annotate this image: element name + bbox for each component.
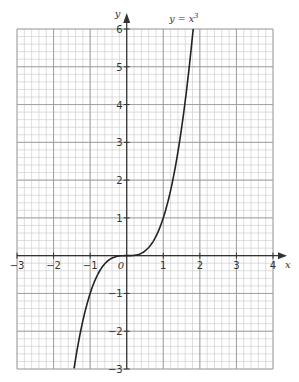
y-tick-label: 3 [116, 137, 122, 148]
curve-label-text: y = x [168, 13, 194, 24]
y-axis-arrow-icon [123, 13, 130, 23]
x-tick-label: −3 [10, 260, 25, 271]
y-tick-label: 6 [116, 24, 122, 35]
y-tick-label: 5 [116, 62, 122, 73]
x-tick-label: 3 [233, 260, 239, 271]
x-axis-title: x [285, 259, 291, 270]
cubic-curve [74, 29, 193, 368]
x-tick-label: 1 [160, 260, 166, 271]
y-tick-label: −1 [108, 288, 123, 299]
y-axis-title: y [114, 8, 121, 19]
curve-label-superscript: 3 [194, 12, 199, 20]
x-tick-label: −2 [46, 260, 61, 271]
x-tick-label: −1 [83, 260, 98, 271]
origin-label: 0 [118, 260, 125, 271]
curve-label: y = x3 [168, 12, 199, 24]
cubic-graph: −3−2−11234654321−1−2−3 x y 0 y = x3 [0, 0, 299, 382]
minor-grid [17, 29, 273, 369]
y-tick-label: 2 [116, 175, 122, 186]
major-grid [17, 29, 273, 369]
x-tick-label: 2 [197, 260, 203, 271]
y-tick-label: 1 [116, 213, 122, 224]
y-tick-label: −2 [108, 326, 123, 337]
y-tick-label: −3 [108, 364, 123, 375]
x-tick-label: 4 [270, 260, 276, 271]
y-tick-label: 4 [116, 100, 122, 111]
